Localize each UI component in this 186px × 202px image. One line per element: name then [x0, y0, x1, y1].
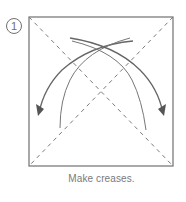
fold-arrow-left-head	[36, 104, 44, 116]
fold-arrow-left-outer-path	[39, 41, 133, 113]
origami-step-diagram: 1	[0, 0, 186, 202]
step-number-badge: 1	[7, 19, 22, 34]
step-caption: Make creases.	[29, 173, 174, 184]
fold-arrow-left-inner-path	[60, 38, 130, 128]
step-number-text: 1	[11, 20, 17, 32]
fold-arrow-right-inner-path	[72, 41, 146, 130]
fold-arrow-right-head	[158, 104, 166, 116]
